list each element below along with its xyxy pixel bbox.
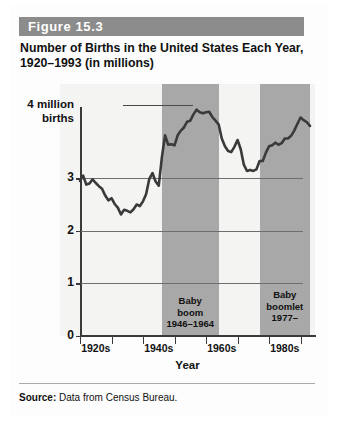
birth-rate-line-series (10, 84, 329, 369)
x-axis-caption: Year (60, 359, 315, 371)
source-prefix: Source: (19, 392, 56, 403)
figure-card: Figure 15.3 Number of Births in the Unit… (10, 6, 329, 416)
figure-number-label: Figure 15.3 (28, 19, 103, 34)
figure-number-bar: Figure 15.3 (19, 17, 304, 36)
data-line-path (80, 110, 310, 215)
source-divider (19, 383, 315, 384)
chart-plot-area: Baby boom 1946–1964 Baby boomlet 1977– 4… (10, 84, 329, 369)
chart-title: Number of Births in the United States Ea… (20, 41, 315, 71)
source-text: Data from Census Bureau. (56, 392, 177, 403)
source-note: Source: Data from Census Bureau. (19, 392, 177, 403)
